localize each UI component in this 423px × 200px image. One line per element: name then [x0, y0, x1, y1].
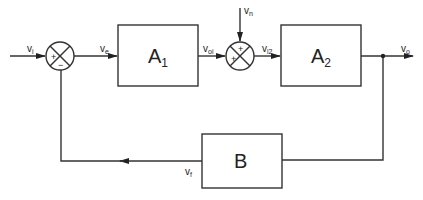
- sum1-plus-sign: +: [51, 52, 56, 62]
- junction-dot: [381, 54, 385, 58]
- block-a1-label: A1: [148, 45, 168, 70]
- block-a2-label: A2: [311, 45, 331, 70]
- feedback-line-left: [61, 70, 124, 161]
- signal-vi2-label: vi2: [262, 43, 273, 55]
- feedback-block-diagram: + − + + A1 A2 B vi ve voi vn vi2 vo vf: [0, 0, 423, 200]
- sum2-top-plus-sign: +: [238, 44, 243, 54]
- signal-vn-label: vn: [244, 5, 253, 17]
- block-b-label: B: [234, 150, 247, 172]
- signal-vi-label: vi: [27, 43, 34, 55]
- signal-ve-label: ve: [100, 43, 109, 55]
- signal-vf-label: vf: [185, 166, 192, 178]
- signal-vo-label: vo: [401, 43, 410, 55]
- feedback-line-right: [282, 56, 383, 160]
- signal-voi-label: voi: [203, 43, 214, 55]
- sum2-left-plus-sign: +: [231, 54, 236, 64]
- sum1-minus-sign: −: [58, 60, 63, 70]
